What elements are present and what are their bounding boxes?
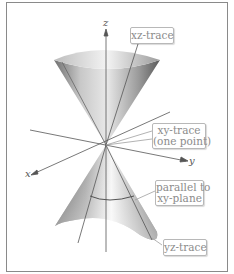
- parallel-plane-label: parallel to xy-plane: [155, 180, 204, 206]
- z-arrowhead: [104, 29, 108, 36]
- xz-trace-label: xz-trace: [130, 27, 174, 44]
- upper-nappe: [54, 50, 160, 145]
- x-axis-label: x: [25, 168, 31, 179]
- y-arrowhead: [180, 157, 188, 162]
- y-axis-label: y: [189, 155, 195, 166]
- yz-trace-label: yz-trace: [163, 239, 207, 256]
- z-axis-label: z: [103, 17, 108, 28]
- x-arrowhead: [31, 170, 38, 175]
- xy-trace-label: xy-trace (one point): [152, 123, 206, 149]
